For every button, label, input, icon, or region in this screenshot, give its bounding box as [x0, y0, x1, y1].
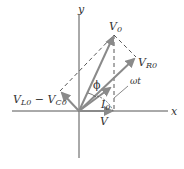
phasor-diagram: x y V0 VR0 VL0 − VC0 I0 V ϕ ωt — [0, 0, 184, 169]
omega-t-pointer — [114, 86, 128, 98]
label-I0: I0 — [100, 98, 110, 112]
label-V0: V0 — [109, 20, 122, 34]
label-VL0-VC0: VL0 − VC0 — [13, 93, 67, 107]
x-axis-label: x — [171, 105, 178, 118]
y-axis-label: y — [77, 3, 85, 16]
label-VR0: VR0 — [138, 56, 157, 70]
label-V: V — [100, 115, 109, 128]
label-omega-t: ωt — [130, 76, 141, 86]
label-phi: ϕ — [93, 79, 101, 92]
phasor-V0 — [79, 37, 113, 111]
dashed-construction-lines — [60, 35, 136, 111]
